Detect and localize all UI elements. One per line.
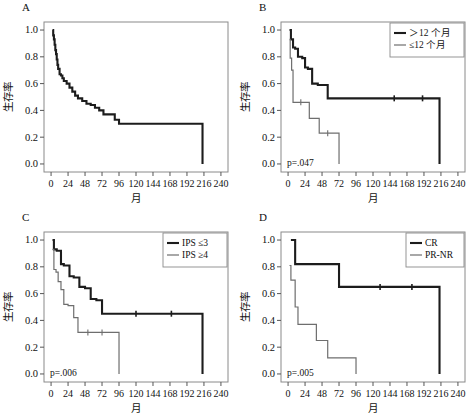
- y-tick-label: 0.6: [262, 288, 275, 299]
- x-tick-label: 120: [366, 388, 381, 399]
- y-tick-label: 0.8: [262, 51, 275, 62]
- plot-area-b: 1.00.80.60.40.20.00244872961201441681922…: [237, 0, 474, 209]
- legend-label: IPS ≥4: [182, 250, 208, 260]
- plot-area-d: 1.00.80.60.40.20.00244872961201441681922…: [237, 210, 474, 419]
- p-value-label: p=.006: [50, 368, 77, 378]
- x-tick-label: 168: [162, 178, 177, 189]
- survival-curve-1: [289, 30, 439, 164]
- survival-curve-2: [289, 39, 339, 164]
- x-tick-label: 0: [49, 178, 54, 189]
- x-tick-label: 48: [80, 178, 90, 189]
- x-tick-label: 192: [416, 388, 431, 399]
- x-tick-label: 24: [300, 178, 310, 189]
- x-tick-label: 240: [450, 178, 465, 189]
- x-tick-label: 120: [129, 178, 144, 189]
- legend-label: IPS ≤3: [182, 238, 208, 248]
- x-axis-label: 月: [131, 403, 141, 414]
- y-tick-label: 0.0: [25, 158, 38, 169]
- p-value-label: p=.047: [287, 158, 314, 168]
- x-tick-label: 144: [382, 388, 397, 399]
- axes-frame: [44, 22, 228, 172]
- x-tick-label: 48: [80, 388, 90, 399]
- x-tick-label: 120: [129, 388, 144, 399]
- y-axis-label: 生存率: [2, 82, 14, 112]
- y-tick-label: 1.0: [262, 24, 275, 35]
- x-tick-label: 120: [366, 178, 381, 189]
- y-tick-label: 0.0: [262, 158, 275, 169]
- y-tick-label: 1.0: [262, 234, 275, 245]
- x-tick-label: 240: [450, 388, 465, 399]
- x-tick-label: 144: [382, 178, 397, 189]
- x-tick-label: 168: [399, 178, 414, 189]
- y-tick-label: 0.8: [262, 261, 275, 272]
- x-tick-label: 72: [97, 178, 107, 189]
- y-tick-label: 0.4: [25, 315, 39, 326]
- x-axis-label: 月: [131, 193, 141, 204]
- y-tick-label: 0.2: [262, 132, 275, 143]
- panel-d: D1.00.80.60.40.20.0024487296120144168192…: [237, 210, 474, 419]
- y-tick-label: 0.6: [262, 78, 275, 89]
- panel-a: A1.00.80.60.40.20.0024487296120144168192…: [0, 0, 237, 209]
- y-axis-label: 生存率: [2, 292, 14, 322]
- x-tick-label: 192: [179, 388, 194, 399]
- x-tick-label: 192: [416, 178, 431, 189]
- legend-label: ≤12 个月: [409, 40, 446, 50]
- y-tick-label: 1.0: [25, 24, 38, 35]
- y-tick-label: 1.0: [25, 234, 38, 245]
- x-tick-label: 72: [334, 178, 344, 189]
- x-tick-label: 48: [317, 388, 327, 399]
- y-tick-label: 0.2: [25, 342, 38, 353]
- x-tick-label: 0: [49, 388, 54, 399]
- survival-curve-2: [52, 249, 119, 374]
- legend-label: CR: [425, 238, 438, 248]
- x-tick-label: 24: [300, 388, 310, 399]
- survival-curve-1: [52, 30, 202, 164]
- x-tick-label: 168: [399, 388, 414, 399]
- legend-label: PR-NR: [425, 250, 454, 260]
- x-tick-label: 96: [114, 388, 124, 399]
- legend-label: ＞12 个月: [409, 28, 451, 38]
- p-value-label: p=.005: [287, 368, 314, 378]
- x-tick-label: 216: [433, 388, 448, 399]
- y-tick-label: 0.2: [25, 132, 38, 143]
- x-axis-label: 月: [368, 403, 378, 414]
- x-tick-label: 24: [63, 178, 73, 189]
- plot-area-c: 1.00.80.60.40.20.00244872961201441681922…: [0, 210, 237, 419]
- y-tick-label: 0.0: [25, 368, 38, 379]
- x-tick-label: 96: [351, 388, 361, 399]
- survival-curve-1: [291, 240, 440, 374]
- y-axis-label: 生存率: [239, 82, 251, 112]
- panel-b: B1.00.80.60.40.20.0024487296120144168192…: [237, 0, 474, 209]
- x-tick-label: 216: [196, 388, 211, 399]
- y-tick-label: 0.2: [262, 342, 275, 353]
- x-tick-label: 0: [286, 178, 291, 189]
- y-tick-label: 0.0: [262, 368, 275, 379]
- x-tick-label: 240: [213, 388, 228, 399]
- plot-area-a: 1.00.80.60.40.20.00244872961201441681922…: [0, 0, 237, 209]
- x-tick-label: 192: [179, 178, 194, 189]
- x-axis-label: 月: [368, 193, 378, 204]
- panel-c: C1.00.80.60.40.20.0024487296120144168192…: [0, 210, 237, 419]
- y-tick-label: 0.4: [262, 315, 276, 326]
- x-tick-label: 168: [162, 388, 177, 399]
- x-tick-label: 96: [351, 178, 361, 189]
- x-tick-label: 144: [145, 178, 160, 189]
- x-tick-label: 24: [63, 388, 73, 399]
- x-tick-label: 48: [317, 178, 327, 189]
- survival-curve-2: [289, 265, 356, 373]
- y-tick-label: 0.4: [25, 105, 39, 116]
- x-tick-label: 216: [196, 178, 211, 189]
- x-tick-label: 96: [114, 178, 124, 189]
- x-tick-label: 240: [213, 178, 228, 189]
- y-tick-label: 0.6: [25, 288, 38, 299]
- x-tick-label: 144: [145, 388, 160, 399]
- y-tick-label: 0.4: [262, 105, 276, 116]
- y-tick-label: 0.6: [25, 78, 38, 89]
- x-tick-label: 72: [97, 388, 107, 399]
- x-tick-label: 72: [334, 388, 344, 399]
- survival-curve-1: [52, 240, 202, 374]
- y-tick-label: 0.8: [25, 261, 38, 272]
- y-axis-label: 生存率: [239, 292, 251, 322]
- x-tick-label: 0: [286, 388, 291, 399]
- x-tick-label: 216: [433, 178, 448, 189]
